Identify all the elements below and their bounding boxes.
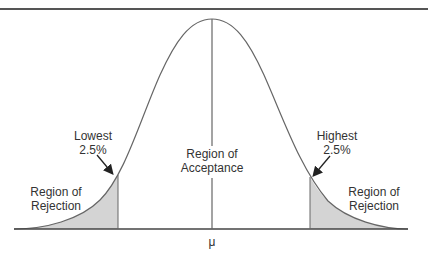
- left-rejection-label: Region of Rejection: [24, 185, 88, 213]
- highest-label: Highest 2.5%: [312, 129, 362, 157]
- lowest-label-line2: 2.5%: [72, 143, 114, 157]
- highest-label-line2: 2.5%: [312, 143, 362, 157]
- right-rejection-label: Region of Rejection: [342, 185, 406, 213]
- right-rejection-line1: Region of: [342, 185, 406, 199]
- left-rejection-line2: Rejection: [24, 199, 88, 213]
- highest-arrow: [314, 156, 330, 175]
- lowest-arrow: [97, 155, 112, 173]
- acceptance-line1: Region of: [176, 147, 248, 161]
- normal-curve-diagram: [0, 0, 428, 256]
- mean-symbol: μ: [204, 235, 220, 249]
- acceptance-line2: Acceptance: [176, 161, 248, 175]
- right-rejection-line2: Rejection: [342, 199, 406, 213]
- acceptance-label: Region of Acceptance: [176, 147, 248, 175]
- left-rejection-line1: Region of: [24, 185, 88, 199]
- lowest-label: Lowest 2.5%: [72, 129, 114, 157]
- lowest-label-line1: Lowest: [72, 129, 114, 143]
- highest-label-line1: Highest: [312, 129, 362, 143]
